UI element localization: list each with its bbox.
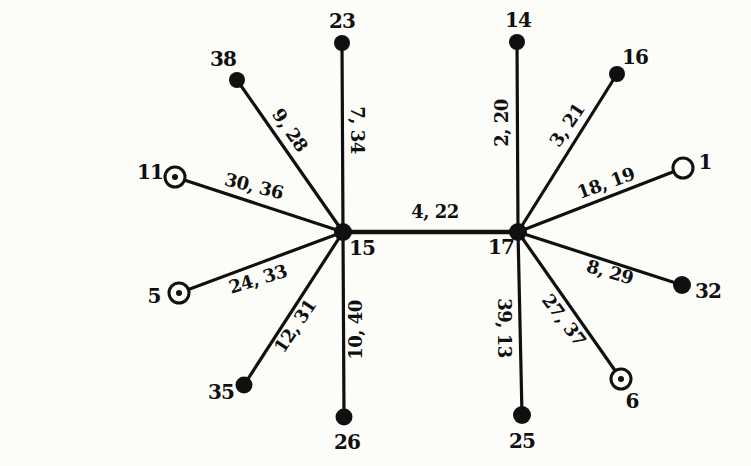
- node-35: 35: [208, 377, 252, 405]
- node-32-marker: [673, 276, 691, 294]
- node-6-label: 6: [626, 389, 639, 413]
- node-6-dot: [618, 376, 624, 382]
- node-23-marker: [334, 35, 350, 51]
- node-38-label: 38: [210, 47, 236, 71]
- edge-17-25: [518, 232, 522, 415]
- figure-page: 4, 227, 349, 2830, 3624, 3312, 3110, 402…: [0, 0, 751, 466]
- node-25: 25: [509, 406, 535, 453]
- edge-15-26: [343, 232, 344, 417]
- node-25-label: 25: [509, 429, 535, 453]
- edge-15-23: [342, 43, 343, 232]
- node-14-marker: [509, 34, 525, 50]
- node-26: 26: [334, 409, 360, 455]
- node-32-label: 32: [695, 279, 721, 303]
- node-25-marker: [513, 406, 531, 424]
- edge-label-17-32: 8, 29: [584, 255, 636, 288]
- node-11-label: 11: [137, 160, 163, 184]
- node-15-label: 15: [349, 236, 375, 260]
- node-38: 38: [210, 47, 245, 88]
- edge-label-17-25: 39, 13: [494, 298, 515, 358]
- network-diagram: 4, 227, 349, 2830, 3624, 3312, 3110, 402…: [0, 0, 751, 466]
- node-5-dot: [176, 290, 182, 296]
- edge-label-15-23: 7, 34: [347, 106, 368, 154]
- node-1-label: 1: [699, 150, 712, 174]
- node-1-marker: [673, 158, 693, 178]
- node-26-marker: [336, 409, 353, 426]
- edge-label-17-16: 3, 21: [545, 99, 589, 150]
- edge-17-16: [518, 74, 617, 232]
- node-14-label: 14: [505, 8, 532, 32]
- edge-label-17-14: 2, 20: [491, 99, 512, 147]
- node-16-label: 16: [622, 45, 648, 69]
- node-15: 15: [334, 223, 375, 260]
- node-32: 32: [673, 276, 721, 303]
- node-23-label: 23: [329, 9, 355, 33]
- node-16: 16: [609, 45, 648, 82]
- edge-label-15-5: 24, 33: [226, 260, 289, 298]
- edge-15-38: [237, 80, 343, 232]
- node-11: 11: [137, 160, 185, 187]
- node-17-label: 17: [488, 235, 514, 259]
- node-17: 17: [488, 223, 527, 259]
- node-23: 23: [329, 9, 355, 51]
- edge-label-15-11: 30, 36: [223, 168, 286, 203]
- node-26-label: 26: [334, 430, 360, 454]
- node-35-label: 35: [208, 380, 234, 404]
- node-1: 1: [673, 150, 711, 178]
- node-38-marker: [229, 72, 245, 88]
- node-11-dot: [172, 174, 178, 180]
- edge-17-6: [518, 232, 621, 379]
- edge-label-15-17: 4, 22: [411, 201, 459, 222]
- node-6: 6: [611, 369, 639, 413]
- node-5: 5: [148, 283, 189, 308]
- node-14: 14: [505, 8, 532, 50]
- node-35-marker: [236, 377, 253, 394]
- edge-label-15-26: 10, 40: [345, 300, 366, 360]
- edge-label-15-38: 9, 28: [268, 104, 313, 155]
- edge-17-14: [517, 42, 518, 232]
- node-5-label: 5: [148, 284, 161, 308]
